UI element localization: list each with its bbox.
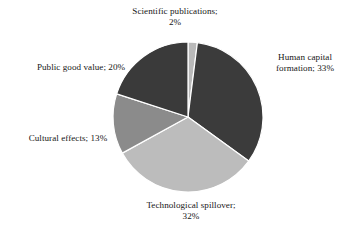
slice-label-scientific-publications: Scientific publications; 2%: [114, 6, 236, 29]
slice-label-line-1: Public good value; 20%: [17, 62, 145, 73]
slice-label-technological-spillover: Technological spillover; 32%: [124, 200, 258, 223]
slice-label-line-2: 32%: [124, 211, 258, 222]
slice-label-line-2: formation; 33%: [262, 63, 348, 74]
slice-label-cultural-effects: Cultural effects; 13%: [9, 133, 127, 144]
slice-label-line-1: Cultural effects; 13%: [9, 133, 127, 144]
slice-label-line-1: Human capital: [262, 52, 348, 63]
slice-label-line-2: 2%: [114, 17, 236, 28]
pie-chart-canvas: [0, 0, 350, 234]
pie-chart: Scientific publications; 2% Human capita…: [0, 0, 350, 234]
slice-label-line-1: Technological spillover;: [124, 200, 258, 211]
slice-label-public-good-value: Public good value; 20%: [17, 62, 145, 73]
slice-label-human-capital-formation: Human capital formation; 33%: [262, 52, 348, 75]
slice-label-line-1: Scientific publications;: [114, 6, 236, 17]
